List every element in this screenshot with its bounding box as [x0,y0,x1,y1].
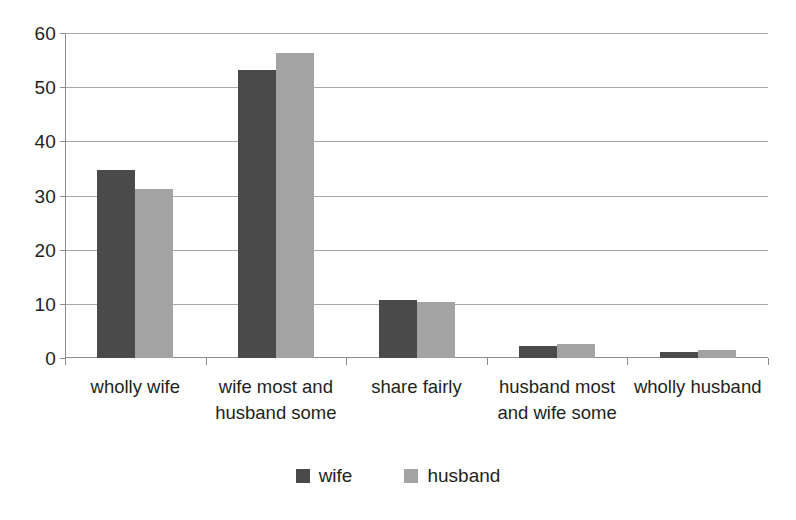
y-axis-tick-label: 40 [12,132,56,151]
bar-group [238,33,314,358]
y-axis-tick-label: 0 [12,349,56,368]
bar-group [519,33,595,358]
bar-husband [135,189,173,358]
x-tick-mark [346,358,347,365]
y-axis-tick-label: 30 [12,187,56,206]
y-axis-tick-label: 10 [12,295,56,314]
legend-label: wife [319,466,353,485]
x-axis-category-label: husband mostand wife some [487,374,628,426]
bar-wife [379,300,417,359]
x-axis-category-label: wholly wife [65,374,206,400]
bar-chart: 6050403020100 wholly wifewife most andhu… [0,0,796,520]
category-label-line: wholly wife [65,374,206,400]
y-axis-tick-label: 60 [12,24,56,43]
x-tick-mark [768,358,769,365]
category-label-line: share fairly [346,374,487,400]
bar-wife [238,70,276,358]
bar-husband [417,302,455,358]
bar-wife [660,352,698,358]
bar-husband [557,344,595,358]
legend-swatch-icon [296,469,310,483]
category-label-line: and wife some [487,400,628,426]
x-axis-category-label: wholly husband [627,374,768,400]
bar-husband [698,350,736,358]
y-axis-labels: 6050403020100 [0,33,56,358]
legend-label: husband [427,466,500,485]
bar-group [97,33,173,358]
x-tick-mark [206,358,207,365]
x-axis-category-label: share fairly [346,374,487,400]
legend-swatch-icon [404,469,418,483]
x-tick-mark [487,358,488,365]
x-tick-mark-origin [65,358,66,365]
bar-husband [276,53,314,358]
bar-group [379,33,455,358]
y-axis-tick-label: 50 [12,78,56,97]
legend-item-husband[interactable]: husband [404,466,500,485]
y-axis-tick-label: 20 [12,241,56,260]
legend-item-wife[interactable]: wife [296,466,353,485]
bars-layer [65,33,768,358]
category-label-line: husband most [487,374,628,400]
category-label-line: wife most and [206,374,347,400]
bar-wife [97,170,135,358]
x-axis-category-label: wife most andhusband some [206,374,347,426]
bar-group [660,33,736,358]
chart-legend: wifehusband [0,466,796,485]
category-label-line: husband some [206,400,347,426]
category-label-line: wholly husband [627,374,768,400]
bar-wife [519,346,557,358]
x-tick-mark [627,358,628,365]
